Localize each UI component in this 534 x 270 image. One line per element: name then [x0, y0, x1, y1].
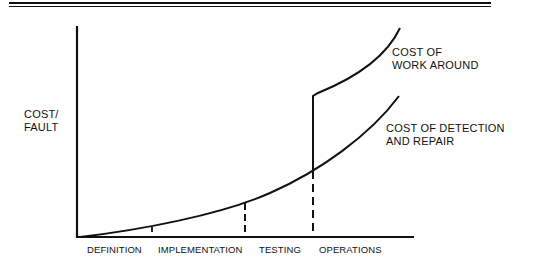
phase-label-testing: TESTING: [259, 244, 301, 255]
work-around-curve: [313, 28, 400, 171]
detection-repair-label: COST OF DETECTION AND REPAIR: [386, 122, 505, 148]
y-axis-label-line2: FAULT: [24, 121, 59, 134]
detection-repair-label-line1: COST OF DETECTION: [386, 122, 505, 135]
work-around-label: COST OF WORK AROUND: [392, 46, 479, 72]
phase-label-implementation: IMPLEMENTATION: [158, 244, 242, 255]
phase-label-definition: DEFINITION: [87, 244, 142, 255]
y-axis-label-line1: COST/: [24, 108, 59, 121]
y-axis-label: COST/ FAULT: [24, 108, 59, 134]
work-around-label-line1: COST OF: [392, 46, 479, 59]
phase-label-operations: OPERATIONS: [319, 244, 382, 255]
detection-repair-curve: [80, 96, 399, 237]
work-around-label-line2: WORK AROUND: [392, 59, 479, 72]
detection-repair-label-line2: AND REPAIR: [386, 135, 505, 148]
